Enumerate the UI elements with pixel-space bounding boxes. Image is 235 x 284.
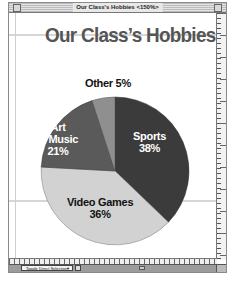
document-window: Our Class's Hobbies <150%> Our Class’s H…: [8, 2, 227, 273]
label-other: Other 5%: [85, 77, 131, 89]
label-video-pct: 36%: [67, 208, 133, 220]
window-title: Our Class's Hobbies <150%>: [72, 3, 162, 12]
tool-status-label: Toggle Direct Selection: [26, 266, 67, 271]
label-sports-name: Sports: [133, 130, 166, 142]
label-sports: Sports 38%: [133, 130, 166, 154]
label-art-music: Art & Music 21%: [38, 121, 78, 157]
close-box-icon[interactable]: [13, 4, 21, 12]
label-art-name: Art: [38, 121, 78, 133]
zoom-box-icon[interactable]: [214, 4, 222, 12]
resize-grow-box[interactable]: [216, 265, 226, 272]
label-art-pct: 21%: [38, 145, 78, 157]
tool-status-dropdown[interactable]: Toggle Direct Selection ▼: [21, 265, 73, 271]
label-video-games: Video Games 36%: [67, 196, 133, 220]
horizontal-scroll-thumb[interactable]: [139, 266, 145, 270]
label-video-name: Video Games: [67, 196, 133, 208]
window-title-bar[interactable]: Our Class's Hobbies <150%>: [9, 3, 226, 13]
label-music-name: & Music: [38, 133, 78, 145]
chevron-down-icon: ▼: [66, 266, 70, 271]
pie-chart: [40, 93, 190, 249]
margin-guide: [15, 13, 16, 258]
label-other-text: Other 5%: [85, 77, 131, 89]
scroll-left-arrow[interactable]: [75, 265, 81, 271]
status-bar: Toggle Direct Selection ▼: [9, 264, 226, 272]
page-title: Our Class’s Hobbies: [45, 23, 215, 47]
vertical-ruler[interactable]: [216, 13, 226, 260]
label-sports-pct: 38%: [133, 142, 166, 154]
